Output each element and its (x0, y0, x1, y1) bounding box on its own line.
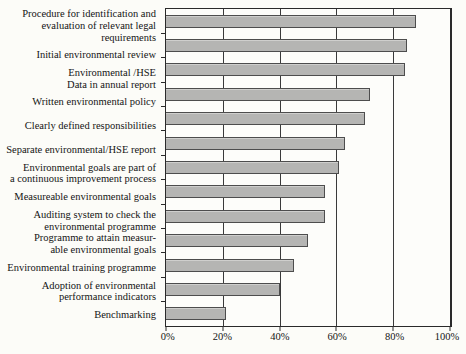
category-label: Clearly defined responsibilities (0, 114, 160, 138)
bar (166, 112, 365, 125)
category-label: Separate environmental/HSE report (0, 138, 160, 162)
bar-row (166, 82, 450, 106)
bar (166, 63, 405, 76)
bar (166, 307, 226, 320)
category-label: Environmental /HSE Data in annual report (0, 67, 160, 91)
x-axis-label: 100% (435, 331, 460, 342)
x-axis-label: 40% (270, 331, 289, 342)
category-axis-tick (161, 228, 166, 229)
category-axis-tick (161, 179, 166, 180)
category-axis-tick (161, 155, 166, 156)
x-axis-label: 0% (161, 331, 175, 342)
bar-row (166, 180, 450, 204)
bar-row (166, 131, 450, 155)
x-axis-label: 20% (213, 331, 232, 342)
bar-row (166, 107, 450, 131)
category-label: Environmental training programme (0, 256, 160, 280)
bar-row (166, 33, 450, 57)
category-axis-tick (161, 33, 166, 34)
bar (166, 283, 280, 296)
bar-rows (166, 9, 450, 326)
bar-row (166, 229, 450, 253)
category-axis-tick (161, 106, 166, 107)
bar (166, 234, 308, 247)
bar-row (166, 204, 450, 228)
category-label: Written environmental policy (0, 91, 160, 115)
bar-chart-figure: Procedure for identification and evaluat… (0, 0, 466, 354)
category-label: Programme to attain measur- able environ… (0, 232, 160, 256)
bar (166, 185, 325, 198)
category-axis-tick (161, 301, 166, 302)
bar (166, 161, 339, 174)
category-axis-tick (161, 277, 166, 278)
category-axis-tick (161, 57, 166, 58)
bar (166, 15, 416, 28)
plot-area (165, 8, 452, 327)
bar-row (166, 9, 450, 33)
bar (166, 88, 370, 101)
category-label: Procedure for identification and evaluat… (0, 8, 160, 43)
category-label: Initial environmental review (0, 43, 160, 67)
category-label: Measureable environmental goals (0, 185, 160, 209)
bar-row (166, 58, 450, 82)
category-label: Environmental goals are part of a contin… (0, 161, 160, 185)
category-label: Adoption of environmental performance in… (0, 280, 160, 304)
x-axis-label: 80% (385, 331, 404, 342)
category-label: Auditing system to check the environment… (0, 209, 160, 233)
bar (166, 210, 325, 223)
bar-row (166, 277, 450, 301)
category-label: Benchmarking (0, 303, 160, 327)
category-axis-tick (161, 82, 166, 83)
bar-row (166, 155, 450, 179)
bar (166, 259, 294, 272)
x-axis-labels: 0%20%40%60%80%100% (165, 331, 452, 347)
bar-row (166, 253, 450, 277)
bar-row (166, 302, 450, 326)
category-axis-tick (161, 130, 166, 131)
category-axis-tick (161, 204, 166, 205)
category-labels: Procedure for identification and evaluat… (0, 8, 160, 327)
bar (166, 39, 407, 52)
category-axis-tick (161, 252, 166, 253)
x-axis-label: 60% (328, 331, 347, 342)
bar (166, 137, 345, 150)
